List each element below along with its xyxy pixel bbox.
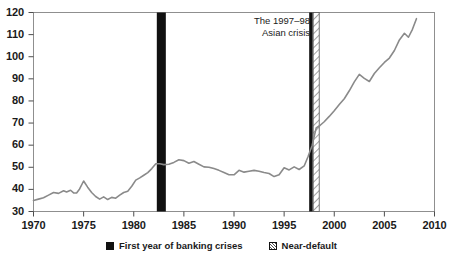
asian-crisis-annotation: The 1997–98 Asian crisis: [218, 15, 310, 39]
annotation-line-1: The 1997–98: [218, 15, 310, 27]
y-axis-tick-label: 100: [0, 50, 24, 62]
hatched-square-icon: [269, 242, 277, 250]
x-axis-tick-label: 2010: [413, 219, 451, 231]
y-axis-tick-label: 80: [0, 94, 24, 106]
y-axis-tick-label: 110: [0, 28, 24, 40]
legend-item-banking-crises: First year of banking crises: [106, 240, 243, 251]
annotation-line-2: Asian crisis: [218, 27, 310, 39]
x-axis-tick-label: 2005: [362, 219, 406, 231]
chart-legend: First year of banking crises Near-defaul…: [0, 240, 443, 251]
x-axis-ticks: [34, 212, 435, 217]
x-axis-tick-label: 1985: [162, 219, 206, 231]
y-axis-tick-label: 30: [0, 205, 24, 217]
x-axis-tick-label: 1970: [12, 219, 56, 231]
legend-label-near-default: Near-default: [282, 240, 337, 251]
y-axis-tick-label: 60: [0, 138, 24, 150]
x-axis-tick-label: 1980: [112, 219, 156, 231]
x-axis-tick-label: 1990: [212, 219, 256, 231]
solid-square-icon: [106, 242, 114, 250]
x-axis-tick-label: 2000: [312, 219, 356, 231]
x-axis-tick-label: 1975: [62, 219, 106, 231]
x-axis-tick-label: 1995: [262, 219, 306, 231]
y-axis-tick-label: 50: [0, 160, 24, 172]
plot-frame: [34, 13, 435, 212]
legend-item-near-default: Near-default: [269, 240, 337, 251]
y-axis-tick-label: 70: [0, 116, 24, 128]
event-band-near-default: [313, 13, 319, 212]
y-axis-tick-label: 90: [0, 72, 24, 84]
event-band-first-year-of-banking-crises: [309, 13, 313, 212]
event-band-first-year-of-banking-crises: [157, 13, 166, 212]
y-axis-tick-label: 40: [0, 182, 24, 194]
legend-label-banking-crises: First year of banking crises: [119, 240, 243, 251]
y-axis-tick-label: 120: [0, 6, 24, 18]
y-axis-ticks: [29, 13, 34, 212]
